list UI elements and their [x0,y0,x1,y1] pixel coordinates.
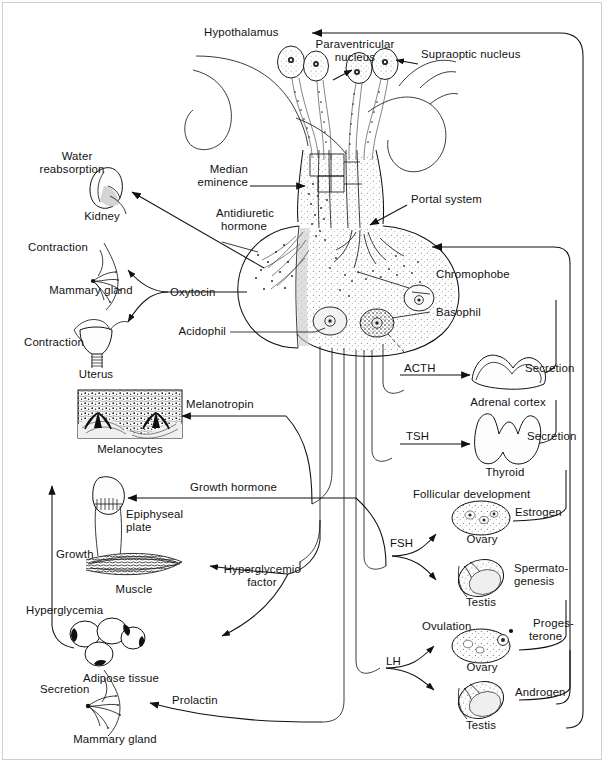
label-portal-system: Portal system [411,193,482,206]
label-paraventricular-nucleus-line2: nucleus [300,51,410,64]
label-androgen: Androgen [515,686,566,699]
label-secretion-thyroid: Secretion [527,430,576,443]
label-hypothalamus: Hypothalamus [204,26,279,39]
label-lh: LH [386,655,401,668]
label-median-eminence-line2: eminence [166,176,248,189]
label-hyperglycemic-factor-line1: Hyperglycemic [214,563,310,576]
testis-lh-shape [454,676,509,724]
label-prolactin: Prolactin [172,694,218,707]
label-supraoptic-nucleus: Supraoptic nucleus [421,48,521,61]
label-estrogen: Estrogen [515,506,562,519]
diagram-artwork [0,0,606,764]
label-mammary-gland-top: Mammary gland [36,284,146,297]
label-acidophil: Acidophil [150,325,226,338]
label-progesterone-line1: Proges- [533,617,574,630]
ovary-fsh-shape [452,501,510,535]
label-antidiuretic-hormone-line1: Antidiuretic [216,207,274,220]
label-contraction-mammary: Contraction [28,241,88,254]
label-follicular-development: Follicular development [413,488,530,501]
label-chromophobe: Chromophobe [436,268,510,281]
label-basophil: Basophil [436,306,481,319]
label-testis-lh: Testis [452,719,510,732]
label-testis-fsh: Testis [452,596,510,609]
label-median-eminence-line1: Median [166,163,248,176]
mammary-gland-top-shape [91,243,121,310]
label-acth: ACTH [404,362,436,375]
label-kidney: Kidney [66,210,138,223]
label-melanocytes: Melanocytes [78,443,182,456]
muscle-shape [86,553,182,574]
label-uterus: Uterus [64,368,128,381]
melanocytes-shape [78,390,182,438]
label-progesterone-line2: terone [529,630,562,643]
label-water-reabsorption-line1: Water [32,150,122,163]
label-adrenal-cortex: Adrenal cortex [446,396,570,409]
adipose-tissue-shape [70,618,145,666]
label-growth: Growth [56,548,94,561]
label-contraction-uterus: Contraction [24,336,84,349]
label-spermatogenesis-line2: genesis [514,575,554,588]
ovary-lh-shape [452,629,513,663]
label-thyroid: Thyroid [462,466,548,479]
label-mammary-gland-bottom: Mammary gland [60,733,170,746]
label-epiphyseal-plate-line1: Epiphyseal [126,508,183,521]
label-spermatogenesis-line1: Spermato- [514,562,569,575]
label-secretion-mammary: Secretion [40,683,89,696]
label-hyperglycemic-factor-line2: factor [214,576,310,589]
label-ovary-fsh: Ovary [452,533,512,546]
label-secretion-adrenal: Secretion [525,362,574,375]
label-fsh: FSH [390,537,413,550]
label-melanotropin: Melanotropin [186,398,254,411]
label-ovary-lh: Ovary [452,661,512,674]
label-water-reabsorption-line2: reabsorption [22,163,122,176]
label-antidiuretic-hormone-line2: hormone [221,220,267,233]
label-muscle: Muscle [104,583,164,596]
label-tsh: TSH [406,430,429,443]
testis-fsh-shape [454,554,509,602]
label-growth-hormone: Growth hormone [190,481,277,494]
label-epiphyseal-plate-line2: plate [126,521,151,534]
endocrine-diagram-page: Hypothalamus Paraventricular nucleus Sup… [0,0,606,764]
label-hyperglycemia: Hyperglycemia [26,604,103,617]
label-ovulation: Ovulation [422,620,471,633]
epiphyseal-plate-shape [93,477,125,556]
label-oxytocin: Oxytocin [170,286,216,299]
label-paraventricular-nucleus-line1: Paraventricular [300,38,410,51]
